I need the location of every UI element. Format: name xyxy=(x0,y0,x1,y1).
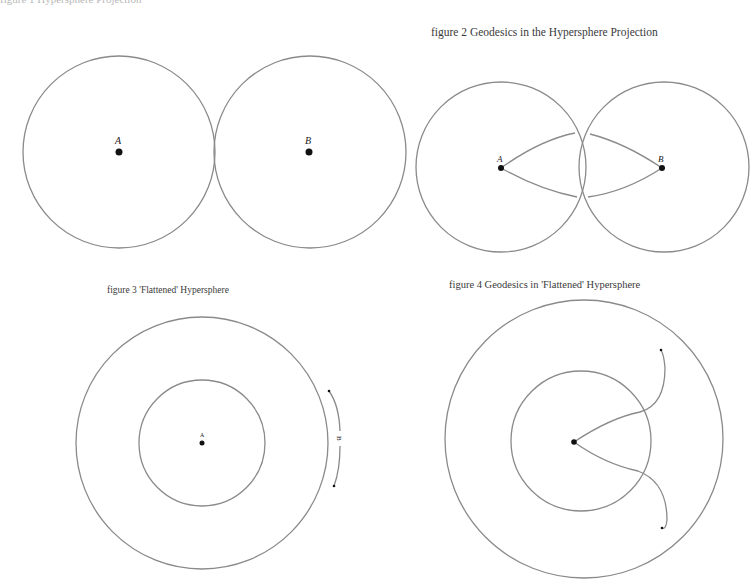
point-a xyxy=(498,165,504,171)
figure-1: A B xyxy=(23,56,406,248)
point-b xyxy=(306,149,313,156)
b-arc-upper xyxy=(329,391,340,431)
figure-4 xyxy=(445,300,723,578)
geodesic-upper-end xyxy=(660,349,663,352)
figure-3: A B xyxy=(76,317,343,569)
diagram-canvas: A B A B A B xyxy=(0,0,755,587)
point-b-label: B xyxy=(658,154,664,164)
b-arc-lower xyxy=(334,446,340,486)
figure-2: A B xyxy=(416,82,749,252)
point-a-label: A xyxy=(496,154,503,164)
point-a xyxy=(571,439,577,445)
geodesic-upper xyxy=(574,350,665,442)
geodesic-b-upper xyxy=(590,134,662,168)
b-arc-end-upper xyxy=(328,390,331,393)
point-b xyxy=(659,165,665,171)
geodesic-lower xyxy=(574,442,667,528)
point-a xyxy=(116,149,123,156)
geodesic-b-lower xyxy=(588,168,662,197)
outer-circle xyxy=(445,300,723,578)
point-a-label: A xyxy=(200,432,205,438)
point-b-label: B xyxy=(305,135,311,146)
inner-circle xyxy=(511,371,651,511)
b-arc-end-lower xyxy=(333,485,336,488)
geodesic-a-lower xyxy=(501,168,577,197)
point-a-label: A xyxy=(114,135,122,146)
geodesic-a-upper xyxy=(501,133,575,168)
point-b-label: B xyxy=(335,436,343,441)
geodesic-lower-end xyxy=(661,527,664,530)
point-a xyxy=(200,441,205,446)
